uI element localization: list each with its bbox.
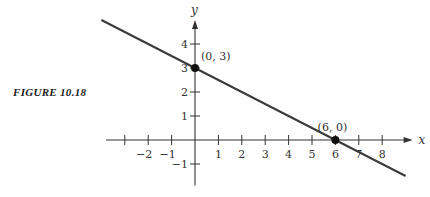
data-point	[331, 136, 339, 144]
y-tick-label: 2	[181, 86, 188, 99]
y-axis-arrow-icon	[192, 20, 198, 29]
x-axis-arrow-icon	[404, 137, 413, 143]
y-tick-label: 4	[181, 38, 188, 51]
x-tick-label: 2	[238, 148, 245, 161]
x-tick-label: 6	[332, 148, 339, 161]
x-tick-label: 4	[285, 148, 292, 161]
x-tick-label: −2	[136, 148, 152, 161]
x-tick-label: 3	[262, 148, 269, 161]
data-point	[191, 64, 199, 72]
y-tick-label: −1	[172, 158, 188, 171]
x-tick-label: 8	[379, 148, 386, 161]
line-chart: xy−2−112345678−11234(0, 3)(6, 0)	[0, 0, 430, 197]
x-tick-label: 1	[215, 148, 222, 161]
x-tick-label: 5	[309, 148, 316, 161]
y-axis-label: y	[190, 3, 198, 17]
point-label: (0, 3)	[201, 50, 231, 63]
point-label: (6, 0)	[318, 121, 348, 134]
y-tick-label: 1	[181, 110, 188, 123]
x-axis-label: x	[419, 133, 426, 147]
